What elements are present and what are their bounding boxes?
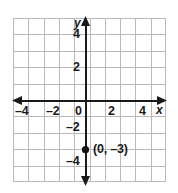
- x-tick-label-2: 2: [108, 105, 115, 118]
- x-tick-label-4: 4: [139, 105, 146, 118]
- y-tick-label-neg2: –2: [66, 121, 79, 134]
- x-axis-label: x: [156, 104, 163, 116]
- data-point-0-neg3: [82, 146, 89, 153]
- y-tick-label-neg4: –4: [66, 155, 79, 168]
- y-tick-label-4: 4: [73, 28, 80, 41]
- origin-label: 0: [75, 105, 82, 118]
- point-coordinate-label: (0, –3): [93, 143, 128, 156]
- x-tick-label-neg4: –4: [15, 105, 28, 118]
- y-tick-label-2: 2: [73, 61, 80, 74]
- coordinate-plane-figure: y x 4 2 –2 –4 –4 –2 0 2 4 (0, –3): [0, 0, 178, 193]
- x-tick-label-neg2: –2: [46, 105, 59, 118]
- coordinate-grid-svg: [0, 0, 178, 193]
